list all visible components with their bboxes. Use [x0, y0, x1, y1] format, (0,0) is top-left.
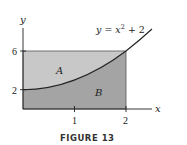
y-axis-label: y [19, 14, 26, 25]
curve-label-base: y = x [95, 24, 121, 35]
curve-label-suffix: + 2 [125, 24, 145, 35]
y-tick-label-6: 6 [12, 46, 17, 57]
figure-caption: FIGURE 13 [60, 133, 115, 143]
curve-label: y = x2 + 2 [95, 23, 145, 35]
figure-canvas: y x 6 2 1 2 A B y = x2 + 2 FIGURE 13 [0, 0, 187, 145]
region-b-label: B [94, 87, 102, 98]
x-tick-label-1: 1 [72, 115, 77, 126]
region-a-label: A [55, 65, 63, 76]
x-tick-label-2: 2 [123, 115, 128, 126]
y-tick-label-2: 2 [12, 85, 17, 96]
x-axis-label: x [155, 103, 161, 114]
